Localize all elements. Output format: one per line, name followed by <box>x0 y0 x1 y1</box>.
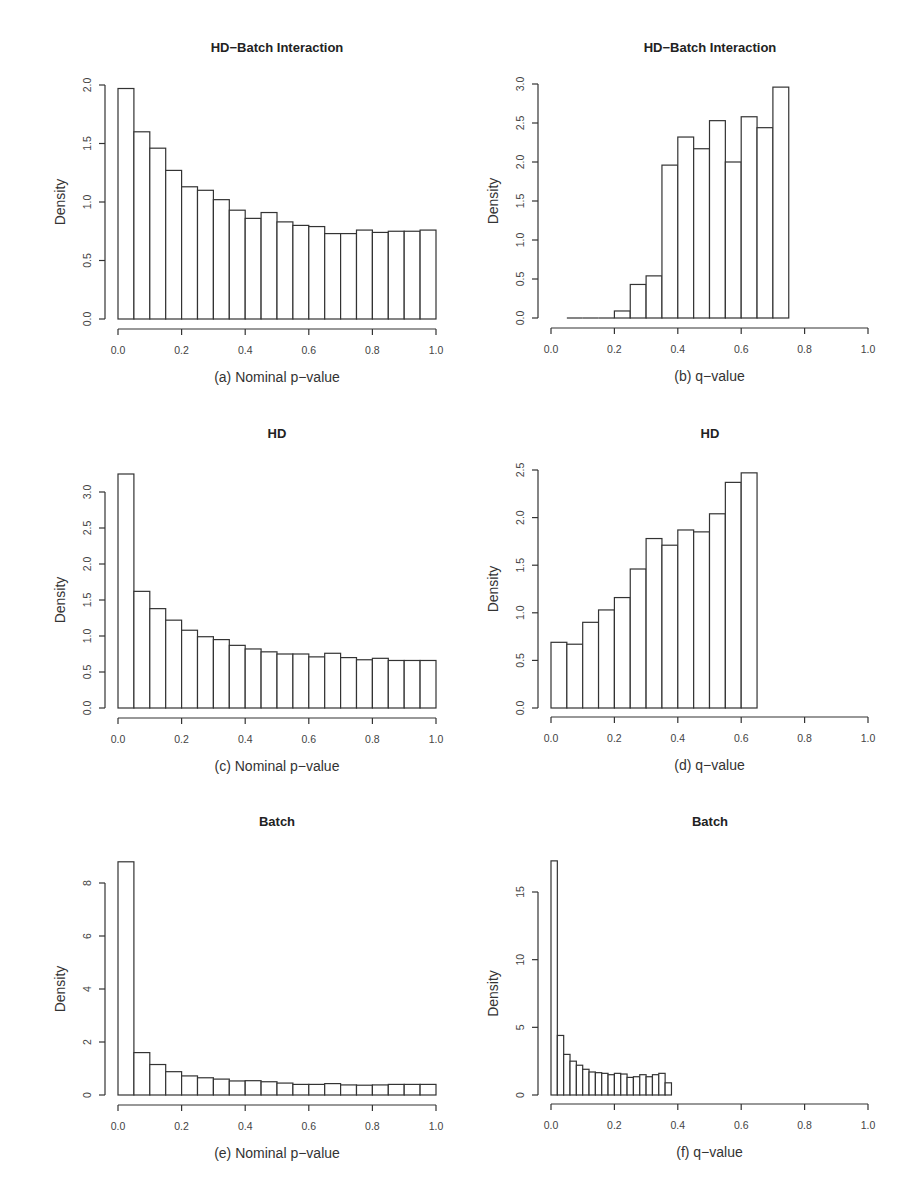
histogram-bar <box>166 620 182 708</box>
chart-title: HD−Batch Interaction <box>211 40 344 55</box>
x-tick-label: 0.8 <box>365 1120 380 1132</box>
histogram-bar <box>633 1077 639 1095</box>
y-axis: 051015Density <box>485 886 538 1098</box>
histogram-bar <box>357 230 373 319</box>
x-axis: 0.00.20.40.60.81.0(e) Nominal p−value <box>111 1105 444 1161</box>
x-tick-label: 0.4 <box>670 732 685 744</box>
histogram-figure: HD−Batch Interaction0.00.51.01.52.0Densi… <box>0 0 912 1198</box>
histogram-bar <box>662 545 678 708</box>
histogram-panel-d: HD0.00.51.01.52.02.5Density0.00.20.40.60… <box>485 426 875 773</box>
histogram-bar <box>198 190 214 319</box>
x-tick-label: 0.0 <box>544 343 559 355</box>
histogram-bar <box>261 652 277 708</box>
histogram-bar <box>420 1084 436 1095</box>
y-tick-label: 1.0 <box>514 605 526 620</box>
histogram-bar <box>741 117 757 318</box>
x-tick-label: 0.0 <box>544 732 559 744</box>
x-tick-label: 0.4 <box>670 343 685 355</box>
bars <box>567 87 789 318</box>
histogram-panel-f: Batch051015Density0.00.20.40.60.81.0(f) … <box>485 814 875 1160</box>
x-tick-label: 1.0 <box>429 344 444 356</box>
x-tick-label: 0.8 <box>797 732 812 744</box>
histogram-bar <box>293 654 309 708</box>
histogram-panel-b: HD−Batch Interaction0.00.51.01.52.02.53.… <box>485 40 875 384</box>
x-axis-label: (b) q−value <box>674 368 745 384</box>
histogram-bar <box>557 1035 563 1095</box>
histogram-bar <box>150 609 166 708</box>
histogram-bar <box>341 1085 357 1095</box>
x-axis: 0.00.20.40.60.81.0(a) Nominal p−value <box>111 329 444 385</box>
figure-canvas: HD−Batch Interaction0.00.51.01.52.0Densi… <box>0 0 912 1198</box>
histogram-bar <box>725 162 741 318</box>
y-tick-label: 2.5 <box>514 116 526 131</box>
histogram-bar <box>646 276 662 318</box>
histogram-bar <box>325 653 341 708</box>
x-axis-label: (f) q−value <box>676 1144 743 1160</box>
histogram-bar <box>551 861 557 1095</box>
x-tick-label: 0.0 <box>111 344 126 356</box>
x-tick-label: 1.0 <box>429 733 444 745</box>
x-tick-label: 0.6 <box>301 1120 316 1132</box>
histogram-bar <box>325 1084 341 1095</box>
bars <box>551 861 671 1095</box>
histogram-bar <box>678 530 694 708</box>
chart-title: Batch <box>259 814 295 829</box>
y-tick-label: 3.0 <box>81 485 93 500</box>
histogram-bar <box>341 234 357 319</box>
x-axis: 0.00.20.40.60.81.0(b) q−value <box>544 328 876 384</box>
histogram-bar <box>595 1073 601 1095</box>
bars <box>118 474 436 708</box>
histogram-bar <box>277 1083 293 1095</box>
y-tick-label: 1.5 <box>81 593 93 608</box>
x-tick-label: 1.0 <box>861 343 876 355</box>
histogram-bar <box>694 149 710 318</box>
histogram-bar <box>630 284 646 318</box>
histogram-bar <box>551 642 567 708</box>
x-tick-label: 1.0 <box>429 1120 444 1132</box>
histogram-bar <box>182 187 198 319</box>
y-axis-label: Density <box>485 178 501 225</box>
histogram-bar <box>150 148 166 319</box>
y-tick-label: 0 <box>81 1092 93 1098</box>
x-tick-label: 0.2 <box>174 344 189 356</box>
histogram-bar <box>567 644 583 708</box>
y-tick-label: 0.0 <box>81 312 93 327</box>
x-axis: 0.00.20.40.60.81.0(c) Nominal p−value <box>111 718 444 774</box>
histogram-bar <box>229 210 245 319</box>
histogram-bar <box>773 87 789 318</box>
histogram-bar <box>293 1084 309 1095</box>
y-tick-label: 1.5 <box>514 558 526 573</box>
y-tick-label: 5 <box>514 1024 526 1030</box>
x-tick-label: 0.2 <box>607 1119 622 1131</box>
histogram-bar <box>570 1061 576 1095</box>
y-tick-label: 4 <box>81 986 93 992</box>
histogram-bar <box>198 637 214 708</box>
y-tick-label: 2.0 <box>81 557 93 572</box>
histogram-bar <box>576 1065 582 1095</box>
x-tick-label: 0.2 <box>174 733 189 745</box>
y-axis-label: Density <box>485 566 501 613</box>
histogram-bar <box>404 231 420 319</box>
y-axis: 0.00.51.01.52.0Density <box>52 78 105 327</box>
y-tick-label: 0.5 <box>81 253 93 268</box>
histogram-bar <box>182 630 198 708</box>
y-axis: 02468Density <box>52 880 105 1098</box>
histogram-bar <box>757 128 773 318</box>
histogram-bar <box>630 569 646 708</box>
x-axis: 0.00.20.40.60.81.0(f) q−value <box>544 1104 876 1160</box>
bars <box>118 862 436 1095</box>
y-tick-label: 3.0 <box>514 77 526 92</box>
histogram-bar <box>652 1075 658 1095</box>
x-tick-label: 0.2 <box>607 732 622 744</box>
histogram-bar <box>694 532 710 708</box>
x-tick-label: 1.0 <box>861 732 876 744</box>
histogram-bar <box>309 657 325 708</box>
bars <box>551 473 757 708</box>
y-tick-label: 2.0 <box>514 510 526 525</box>
histogram-bar <box>372 658 388 708</box>
histogram-bar <box>134 1053 150 1095</box>
y-axis: 0.00.51.01.52.02.53.0Density <box>52 485 105 716</box>
y-tick-label: 1.0 <box>514 233 526 248</box>
histogram-bar <box>659 1073 665 1095</box>
histogram-bar <box>678 137 694 318</box>
